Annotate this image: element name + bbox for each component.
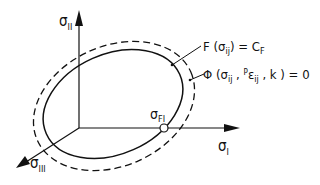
yield-surface-leader	[172, 46, 201, 65]
yield-surface-equation: F (σij) = CF	[203, 39, 265, 56]
loading-surface-equation: Φ (σij , Pεij , k ) = 0	[203, 67, 310, 84]
sigma-3-label: σIII	[30, 154, 46, 174]
sigma-f1-label: σFI	[150, 106, 165, 124]
sigma-1-arrowhead-icon	[224, 124, 240, 132]
sigma-f1-point	[160, 124, 168, 132]
loading-surface-dashed	[13, 17, 215, 185]
sigma-2-arrowhead-icon	[75, 10, 83, 26]
yield-surface-solid	[26, 29, 200, 180]
sigma-2-label: σII	[59, 12, 72, 32]
yield-surface-diagram: σII σI σIII σFI F (σij) = CF Φ (σij , Pε…	[0, 0, 320, 185]
sigma-3-arrowhead-icon	[16, 156, 30, 168]
sigma-1-label: σI	[218, 137, 229, 157]
